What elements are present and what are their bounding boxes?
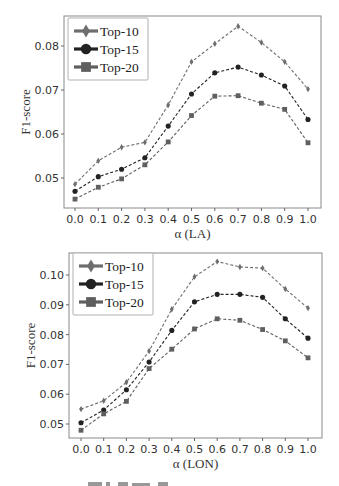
x-tick-label: 0.5: [183, 213, 201, 226]
y-tick-label: 0.06: [40, 388, 65, 401]
diamond-marker: [259, 39, 263, 45]
square-marker: [283, 338, 288, 343]
square-marker: [147, 366, 152, 371]
legend: Top-10Top-15Top-20: [68, 18, 148, 80]
x-tick-label: 0.7: [231, 443, 249, 456]
circle-marker: [192, 299, 197, 304]
diamond-marker: [73, 181, 77, 187]
circle-marker: [236, 65, 241, 70]
square-marker: [189, 113, 194, 118]
legend-label: Top-10: [105, 259, 144, 274]
diamond-marker: [215, 258, 219, 264]
square-marker: [169, 347, 174, 352]
x-tick-label: 0.3: [140, 443, 158, 456]
legend-label: Top-15: [105, 277, 144, 292]
x-axis: 0.00.10.20.30.40.50.60.70.80.91.0: [66, 208, 317, 226]
circle-marker: [166, 124, 171, 129]
circle-marker: [305, 336, 310, 341]
legend-label: Top-20: [100, 60, 139, 75]
y-tick-label: 0.07: [35, 84, 60, 97]
y-axis: 0.050.060.070.08: [35, 40, 65, 185]
circle-icon: [81, 44, 91, 54]
x-tick-label: 0.8: [254, 443, 272, 456]
series-top-15: [72, 65, 310, 194]
square-marker: [96, 185, 101, 190]
y-tick-label: 0.07: [40, 358, 65, 371]
square-marker: [236, 93, 241, 98]
square-marker: [166, 140, 171, 145]
y-tick-label: 0.08: [35, 40, 60, 53]
circle-marker: [237, 292, 242, 297]
circle-marker: [119, 167, 124, 172]
square-marker: [79, 428, 84, 433]
square-marker: [306, 140, 311, 145]
diamond-marker: [120, 144, 124, 150]
y-axis-title: F1-score: [18, 89, 33, 135]
chart-lon: 0.050.060.070.080.090.100.00.10.20.30.40…: [23, 253, 322, 471]
series-line: [81, 319, 308, 430]
circle-marker: [147, 359, 152, 364]
x-tick-label: 0.4: [159, 213, 177, 226]
square-marker: [143, 162, 148, 167]
square-marker: [124, 399, 129, 404]
x-tick-label: 0.0: [72, 443, 90, 456]
square-marker: [192, 327, 197, 332]
x-tick-label: 1.0: [299, 443, 317, 456]
square-marker: [282, 107, 287, 112]
x-tick-label: 0.2: [113, 213, 131, 226]
x-tick-label: 1.0: [299, 213, 317, 226]
x-tick-label: 0.3: [136, 213, 154, 226]
legend-label: Top-15: [100, 42, 139, 57]
x-tick-label: 0.4: [163, 443, 181, 456]
square-marker: [101, 411, 106, 416]
x-axis-title: α (LON): [173, 456, 218, 471]
x-tick-label: 0.1: [90, 213, 108, 226]
square-marker: [259, 101, 264, 106]
square-icon: [86, 297, 96, 307]
x-tick-label: 0.9: [277, 443, 295, 456]
circle-marker: [305, 117, 310, 122]
y-tick-label: 0.06: [35, 128, 60, 141]
x-tick-label: 0.5: [186, 443, 204, 456]
x-tick-label: 0.6: [206, 213, 224, 226]
figure-caption-clipped: [0, 478, 339, 486]
circle-marker: [169, 328, 174, 333]
legend: Top-10Top-15Top-20: [73, 253, 153, 315]
circle-marker: [78, 420, 83, 425]
legend-label: Top-10: [100, 24, 139, 39]
circle-marker: [259, 72, 264, 77]
square-marker: [238, 318, 243, 323]
diamond-marker: [213, 41, 217, 47]
diamond-marker: [102, 398, 106, 404]
diamond-marker: [283, 286, 287, 292]
square-icon: [81, 62, 91, 72]
x-axis: 0.00.10.20.30.40.50.60.70.80.91.0: [72, 438, 317, 456]
circle-marker: [282, 83, 287, 88]
y-tick-label: 0.09: [40, 299, 65, 312]
square-marker: [119, 176, 124, 181]
circle-marker: [96, 174, 101, 179]
x-tick-label: 0.7: [229, 213, 247, 226]
y-axis: 0.050.060.070.080.090.10: [40, 269, 70, 431]
y-tick-label: 0.05: [35, 172, 60, 185]
y-tick-label: 0.10: [40, 269, 65, 282]
circle-marker: [124, 387, 129, 392]
circle-marker: [72, 189, 77, 194]
diamond-marker: [96, 158, 100, 164]
circle-marker: [189, 91, 194, 96]
series-line: [75, 67, 308, 191]
x-tick-label: 0.1: [95, 443, 113, 456]
circle-marker: [212, 70, 217, 75]
circle-marker: [283, 316, 288, 321]
circle-marker: [260, 295, 265, 300]
figure-canvas: 0.050.060.070.080.00.10.20.30.40.50.60.7…: [0, 0, 339, 486]
diamond-marker: [238, 264, 242, 270]
diamond-marker: [190, 59, 194, 65]
x-tick-label: 0.2: [118, 443, 136, 456]
series-line: [75, 96, 308, 199]
chart-la: 0.050.060.070.080.00.10.20.30.40.50.60.7…: [18, 16, 321, 241]
series-top-20: [73, 93, 311, 201]
y-tick-label: 0.05: [40, 418, 65, 431]
circle-icon: [86, 279, 96, 289]
diamond-marker: [236, 23, 240, 29]
